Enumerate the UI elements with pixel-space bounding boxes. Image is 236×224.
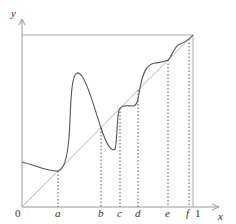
dotted-guides [58,39,189,207]
x-tick-c: c [117,207,122,219]
x-tick-1: 1 [195,207,201,219]
function-curve [22,35,193,171]
origin-label: 0 [15,207,21,219]
x-axis-label: x [217,210,223,222]
x-tick-a: a [55,207,61,219]
x-tick-d: d [135,207,141,219]
x-tick-b: b [98,207,104,219]
fixed-point-diagram: y x 0 a b c d e f 1 [0,0,236,224]
x-tick-e: e [165,207,170,219]
x-tick-f: f [186,207,191,219]
y-axis-label: y [10,7,16,19]
